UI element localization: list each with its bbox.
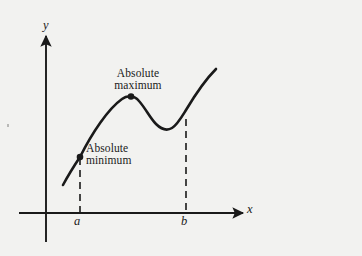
tick-label-b: b bbox=[181, 215, 187, 228]
y-axis-label: y bbox=[43, 19, 49, 32]
absolute-maximum-label: Absolute maximum bbox=[100, 67, 176, 92]
x-axis-label: x bbox=[247, 203, 253, 216]
figure-absolute-extrema: Absolute maximum Absolute minimum y x a … bbox=[0, 0, 362, 256]
point-absolute-minimum bbox=[77, 154, 84, 161]
tick-label-a: a bbox=[74, 215, 80, 228]
page-speck bbox=[7, 124, 9, 127]
point-absolute-maximum bbox=[128, 93, 135, 100]
absolute-minimum-label: Absolute minimum bbox=[86, 142, 152, 167]
